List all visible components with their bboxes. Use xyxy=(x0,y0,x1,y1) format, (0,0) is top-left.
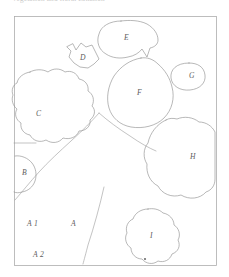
region-markers xyxy=(144,258,146,260)
figure-container: E D G F C H B A 1 A I A 2 xyxy=(0,0,229,277)
region-labels: E D G F C H B A 1 A I A 2 xyxy=(22,33,196,259)
region-label-A2: A 2 xyxy=(32,250,44,259)
terrain-ridge-main xyxy=(15,113,99,200)
region-label-H: H xyxy=(189,152,196,161)
region-label-A: A xyxy=(70,219,76,228)
terrain-slope-lower xyxy=(83,187,104,264)
terrain-lines xyxy=(14,113,156,264)
region-label-G: G xyxy=(189,71,195,80)
region-label-D: D xyxy=(79,53,86,62)
region-label-A1: A 1 xyxy=(26,219,38,228)
terrain-ridge-right xyxy=(99,113,156,151)
region-label-I: I xyxy=(149,231,153,240)
region-outlines xyxy=(12,20,215,263)
region-label-F: F xyxy=(136,88,142,97)
marker-i-icon xyxy=(144,258,146,260)
region-label-B: B xyxy=(22,168,27,177)
vegetation-zonation-map: E D G F C H B A 1 A I A 2 xyxy=(0,0,229,277)
region-outline-G xyxy=(171,63,205,90)
region-outline-H xyxy=(144,117,215,198)
region-label-E: E xyxy=(123,33,129,42)
region-outline-C xyxy=(12,69,94,142)
figure-page: Vegetation and floral zonation xyxy=(0,0,229,277)
region-label-C: C xyxy=(36,109,42,118)
